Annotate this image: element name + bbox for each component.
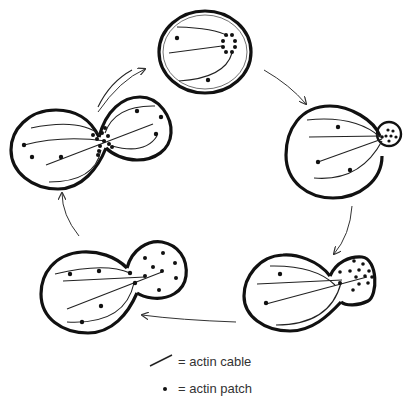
cell-cytokinesis: [11, 70, 171, 189]
legend-label-actin-patch: = actin patch: [178, 381, 252, 396]
arrow-large-bud-to-cytokinesis: [62, 193, 79, 236]
cell-medium-bud: [244, 255, 375, 331]
arrow-unbudded-to-small-bud: [264, 70, 306, 104]
arrow-cytokinesis-to-unbudded: [98, 69, 145, 112]
legend: = actin cable = actin patch: [150, 354, 252, 396]
cell-large-bud: [41, 242, 186, 333]
actin-patch-symbol: [163, 387, 167, 391]
yeast-cell-cycle-diagram: = actin cable = actin patch: [0, 0, 409, 399]
cell-small-bud: [286, 106, 401, 198]
legend-label-actin-cable: = actin cable: [178, 354, 251, 369]
arrow-small-to-medium-bud: [334, 206, 352, 254]
cell-unbudded: [159, 11, 251, 93]
cycle-arrows: [62, 69, 352, 322]
arrow-medium-to-large-bud: [142, 315, 236, 322]
actin-cable-symbol: [150, 355, 172, 366]
